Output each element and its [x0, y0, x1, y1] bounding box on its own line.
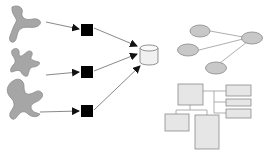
arrow-shape1-to-square1 [46, 22, 79, 29]
diagram-svg [0, 0, 270, 156]
child-box-1 [226, 85, 251, 96]
graph-node-hub-right [242, 32, 263, 44]
child-box-bottom-left [165, 114, 189, 131]
graph-node-middle-left [178, 44, 199, 56]
irregular-shape-1 [9, 6, 40, 42]
black-square-3 [81, 105, 93, 117]
diagram-canvas [0, 0, 270, 156]
child-box-bottom-right [195, 115, 219, 149]
graph-edge-middle-left [199, 39, 243, 50]
arrow-shape2-to-square2 [46, 72, 79, 75]
black-square-2 [81, 66, 93, 78]
irregular-shape-3 [7, 79, 42, 119]
irregular-shape-2 [11, 48, 40, 76]
arrow-shape3-to-square3 [40, 111, 79, 112]
arrow-square1-to-database [94, 28, 137, 46]
arrow-square3-to-database [94, 66, 140, 110]
graph-edge-bottom [220, 42, 247, 63]
black-square-1 [81, 24, 93, 36]
graph-edge-top-left [210, 31, 243, 37]
arrow-square2-to-database [94, 54, 137, 71]
database-cylinder-icon [140, 45, 158, 65]
child-box-3 [226, 109, 251, 118]
child-box-2 [226, 99, 251, 106]
main-box [178, 84, 203, 105]
graph-node-bottom [206, 62, 227, 74]
graph-node-top-left [190, 25, 210, 37]
